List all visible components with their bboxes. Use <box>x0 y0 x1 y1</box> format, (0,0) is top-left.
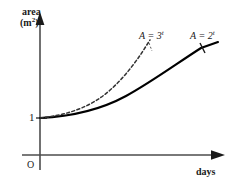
y-axis-label-units: (m2) <box>20 17 39 28</box>
curve-label-a-equals-3-to-t: A = 3t <box>139 31 164 41</box>
curve-label-solid-exponent: t <box>213 29 215 37</box>
graph-figure: area (m2) days 1 O A = 3t A = 2t <box>0 0 234 183</box>
curve-label-solid-text: A = 2 <box>190 30 213 41</box>
leader-line-dashed-curve <box>149 43 152 51</box>
curve-label-a-equals-2-to-t: A = 2t <box>190 31 215 41</box>
y-axis-units-prefix: (m <box>20 17 32 28</box>
curve-label-dashed-exponent: t <box>162 29 164 37</box>
x-axis-label-days: days <box>196 166 215 177</box>
y-tick-label-1: 1 <box>29 112 35 123</box>
curve-dashed-a-equals-3-to-t <box>40 40 150 118</box>
origin-label: O <box>27 159 34 170</box>
curve-solid-a-equals-2-to-t <box>40 42 218 118</box>
y-axis <box>36 12 45 170</box>
curve-label-dashed-text: A = 3 <box>139 30 162 41</box>
y-axis-units-suffix: ) <box>35 17 38 28</box>
x-axis-arrow-icon <box>211 150 225 160</box>
x-axis <box>22 150 225 160</box>
